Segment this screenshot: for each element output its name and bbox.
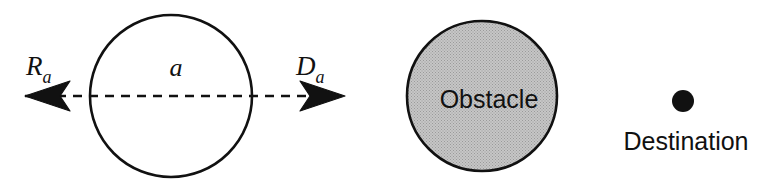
destination-vector-label-subscript: a <box>316 67 325 87</box>
diagram-svg: Ra Da a Obstacle Destination <box>0 0 769 182</box>
destination-vector-label: Da <box>295 51 325 87</box>
retreat-label-subscript: a <box>43 67 52 87</box>
agent-center-label: a <box>170 53 183 82</box>
diagram-canvas: Ra Da a Obstacle Destination <box>0 0 769 182</box>
destination-vector-label-main: D <box>295 51 316 81</box>
retreat-label: Ra <box>25 51 52 87</box>
destination-dot-icon <box>672 90 694 112</box>
obstacle-label: Obstacle <box>440 85 539 113</box>
retreat-label-main: R <box>25 51 43 81</box>
destination-label: Destination <box>623 127 748 155</box>
